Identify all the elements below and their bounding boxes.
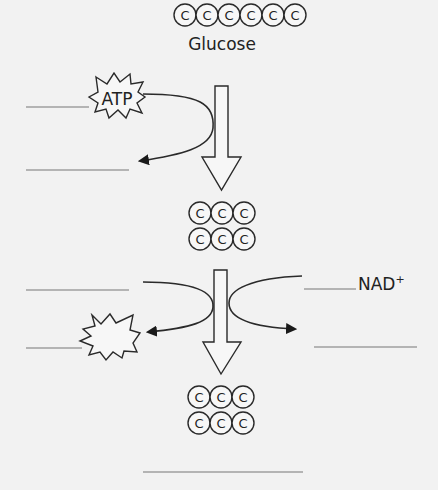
product-carbon-labels: C C C C C C [194,390,247,431]
carbon-label: C [202,8,211,23]
glycolysis-diagram: C C C C C C Glucose ATP C C C C C C NA [0,0,438,490]
nad-label: NAD+ [358,273,405,294]
intermediate-carbon-labels: C C C C C C [195,206,248,247]
carbon-label: C [195,206,204,221]
atp-curved-arrow [140,94,213,161]
carbon-label: C [238,390,247,405]
carbon-label: C [216,416,225,431]
carbon-label: C [238,416,247,431]
carbon-label: C [268,8,277,23]
step2-left-curved-arrow [143,282,213,332]
carbon-label: C [239,232,248,247]
carbon-label: C [246,8,255,23]
reaction-arrow-2 [203,270,241,374]
atp-label: ATP [102,89,133,109]
carbon-label: C [216,390,225,405]
carbon-label: C [217,206,226,221]
carbon-label: C [217,232,226,247]
carbon-label: C [239,206,248,221]
carbon-label: C [195,232,204,247]
energy-output-burst-icon [80,314,140,360]
carbon-label: C [194,416,203,431]
carbon-label: C [180,8,189,23]
glucose-carbon-chain [174,4,306,26]
nad-curved-arrow [229,276,302,329]
carbon-label: C [224,8,233,23]
carbon-label: C [194,390,203,405]
glucose-label: Glucose [188,34,256,54]
carbon-label: C [290,8,299,23]
